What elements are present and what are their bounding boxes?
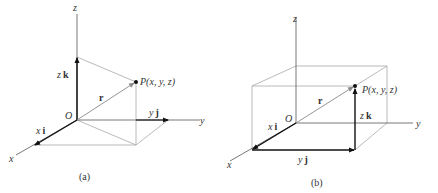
- position-vector-diagram: z y x O P(x, y, z) r zk yj xi (a): [0, 0, 438, 193]
- r-vector: [77, 83, 134, 120]
- y-j-label: yj: [297, 154, 308, 165]
- y-axis-label: y: [199, 115, 205, 126]
- point-p: [134, 80, 138, 84]
- point-p-label: P(x, y, z): [139, 76, 176, 88]
- z-axis-label: z: [72, 2, 77, 13]
- x-axis-label: x: [8, 153, 14, 164]
- y-axis-label: y: [415, 118, 421, 129]
- y-j-label: yj: [148, 107, 159, 118]
- x-i-vector: [35, 120, 77, 145]
- z-k-label: zk: [359, 110, 372, 121]
- x-i-label: xi: [35, 125, 45, 136]
- panel-b: z y x O P(x, y, z) r zk yj xi (b): [226, 13, 421, 189]
- z-axis-label: z: [292, 13, 297, 24]
- panel-a: z y x O P(x, y, z) r zk yj xi (a): [8, 2, 205, 183]
- x-axis-label: x: [226, 159, 232, 170]
- component-vectors: [252, 89, 355, 150]
- x-i-label: xi: [267, 121, 277, 132]
- origin-label: O: [65, 110, 72, 121]
- r-vector: [296, 87, 353, 123]
- origin-label: O: [285, 113, 292, 124]
- point-p: [353, 84, 357, 88]
- point-p-label: P(x, y, z): [361, 84, 398, 96]
- r-label: r: [318, 95, 323, 106]
- z-k-label: zk: [56, 69, 69, 80]
- caption-a: (a): [79, 171, 90, 183]
- caption-b: (b): [311, 177, 323, 189]
- r-label: r: [99, 92, 104, 103]
